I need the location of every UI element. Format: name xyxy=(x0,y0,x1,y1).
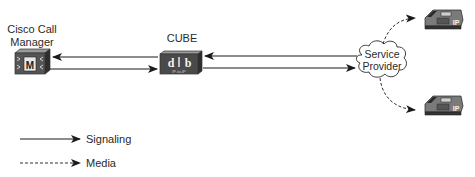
call-manager-icon: M xyxy=(15,49,50,74)
legend-media-label: Media xyxy=(86,157,116,170)
ip-phone-bottom-icon: IP xyxy=(425,96,463,115)
cube-label: CUBE xyxy=(160,32,204,45)
media-arrow-sp-to-phone-bottom xyxy=(380,78,415,110)
svg-text:M: M xyxy=(26,60,34,71)
call-manager-label: Cisco Call Manager xyxy=(4,23,60,49)
call-manager-label-line2: Manager xyxy=(4,36,60,49)
cube-router-icon: d b IP-to-IP xyxy=(160,51,202,74)
media-arrow-sp-to-phone-top xyxy=(383,18,415,44)
service-provider-label-line1: Service xyxy=(358,48,406,60)
service-provider-label-line2: Provider xyxy=(358,60,406,72)
ip-phone-top-icon: IP xyxy=(425,10,463,29)
call-manager-label-line1: Cisco Call xyxy=(4,23,60,36)
svg-text:IP-to-IP: IP-to-IP xyxy=(172,69,186,74)
svg-text:IP: IP xyxy=(453,105,460,112)
diagram-canvas: M d b IP-to-IP IP IP xyxy=(0,0,475,177)
svg-text:IP: IP xyxy=(453,19,460,26)
legend-signaling-label: Signaling xyxy=(86,133,131,146)
service-provider-label: Service Provider xyxy=(358,48,406,72)
